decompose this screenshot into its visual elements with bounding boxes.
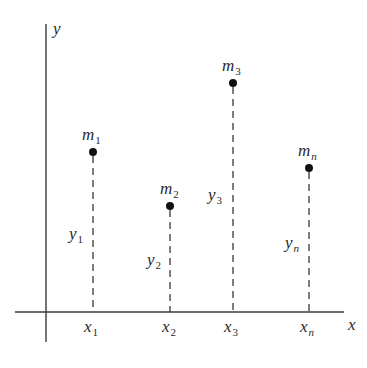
mass-label-2: m2	[160, 180, 179, 200]
point-masses-diagram: y x m1 m2 m3 mn y1 y2 y3 yn x1 x2 x3 xn	[0, 0, 367, 368]
height-label-2: y2	[147, 251, 161, 271]
mass-label-3: m3	[222, 57, 241, 77]
height-label-n: yn	[285, 234, 299, 254]
mass-label-1: m1	[82, 126, 101, 146]
mass-label-n: mn	[298, 142, 317, 162]
x-coord-label-1: x1	[84, 318, 98, 338]
height-label-3: y3	[208, 186, 222, 206]
x-coord-label-3: x3	[224, 318, 238, 338]
mass-point-1	[89, 148, 97, 156]
y-axis-label: y	[53, 20, 61, 37]
mass-point-3	[229, 79, 237, 87]
diagram-canvas	[0, 0, 367, 368]
x-axis-label: x	[348, 316, 356, 333]
x-coord-label-n: xn	[300, 318, 314, 338]
x-coord-label-2: x2	[162, 318, 176, 338]
height-label-1: y1	[69, 225, 83, 245]
mass-point-2	[166, 202, 174, 210]
mass-point-n	[305, 164, 313, 172]
